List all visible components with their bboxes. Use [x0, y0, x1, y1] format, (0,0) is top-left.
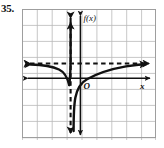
origin-label: O [84, 81, 91, 91]
figure-root: 35. [0, 0, 164, 148]
function-label: f(x) [84, 13, 97, 23]
x-axis-label: x [139, 81, 145, 91]
graph-background [22, 9, 156, 140]
curve-upper-left-branch-vertical [69, 23, 70, 85]
coordinate-graph-svg: f(x) O x [22, 9, 156, 140]
problem-number: 35. [1, 2, 14, 14]
graph-area: f(x) O x [22, 9, 156, 140]
